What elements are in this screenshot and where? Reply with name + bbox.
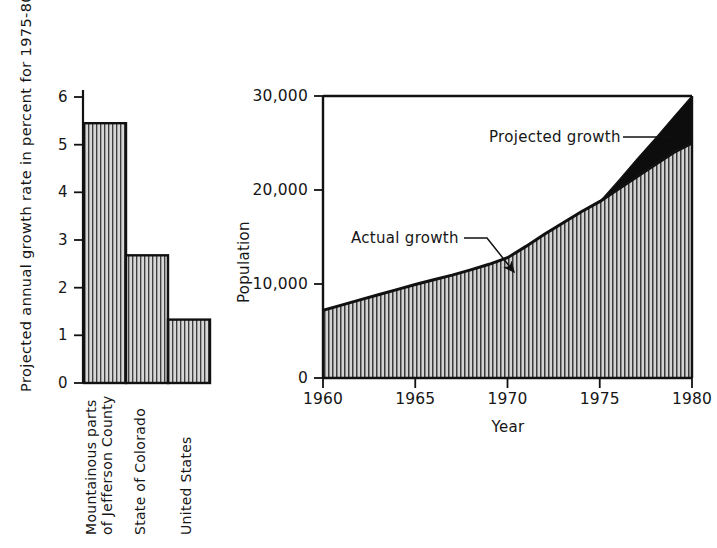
bar-rect-united-states: [168, 320, 210, 383]
area-y-tick-label-1: 10,000: [253, 275, 308, 293]
bar-category-line-0-1: of Jefferson County: [99, 395, 115, 535]
bar-category-line-1-0: State of Colorado: [132, 408, 148, 535]
area-chart-y-axis-title: Population: [235, 221, 253, 303]
bar-rect-mountainous-parts-of-jefferson-county: [84, 123, 126, 383]
area-y-tick-label-2: 20,000: [253, 181, 308, 199]
area-y-axis-label-text: Population: [235, 221, 253, 303]
bar-y-tick-label-6: 6: [58, 88, 68, 106]
annotation-projected-growth-label: Projected growth: [489, 128, 621, 146]
bar-category-line-0-0: Mountainous parts: [83, 399, 99, 535]
bar-y-tick-label-2: 2: [58, 279, 68, 297]
area-x-tick-label-1970: 1970: [487, 390, 527, 408]
bar-chart-y-axis-title: Projected annual growth rate in percent …: [18, 0, 34, 392]
bar-item-1: [126, 255, 168, 383]
area-x-tick-label-1965: 1965: [395, 390, 435, 408]
bar-category-label-0: Mountainous parts of Jefferson County: [83, 395, 115, 535]
figure-canvas: Projected annual growth rate in percent …: [0, 0, 717, 548]
bar-category-line-2-0: United States: [178, 436, 194, 535]
bar-category-label-2: United States: [178, 436, 194, 535]
bar-y-tick-label-1: 1: [58, 326, 68, 344]
bar-y-axis-label-text: Projected annual growth rate in percent …: [18, 0, 34, 392]
area-y-tick-label-0: 0: [298, 369, 308, 387]
area-x-tick-label-1975: 1975: [580, 390, 620, 408]
area-x-tick-label-1980: 1980: [672, 390, 712, 408]
bar-y-tick-label-5: 5: [58, 136, 68, 154]
bar-y-tick-label-0: 0: [58, 374, 68, 392]
figure-root: Projected annual growth rate in percent …: [0, 0, 717, 548]
annotation-actual-growth-label: Actual growth: [351, 229, 459, 247]
bar-y-tick-label-3: 3: [58, 231, 68, 249]
bar-y-tick-label-4: 4: [58, 183, 68, 201]
bar-item-0: [84, 123, 126, 383]
area-x-axis-label-text: Year: [491, 418, 525, 436]
area-y-tick-label-3: 30,000: [253, 87, 308, 105]
area-x-tick-label-1960: 1960: [303, 390, 343, 408]
bar-item-2: [168, 320, 210, 383]
bar-rect-state-of-colorado: [126, 255, 168, 383]
bar-category-label-1: State of Colorado: [132, 408, 148, 535]
